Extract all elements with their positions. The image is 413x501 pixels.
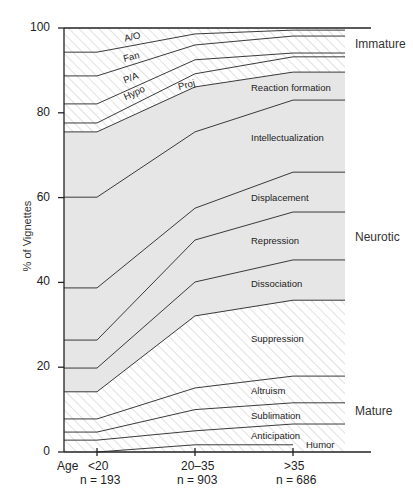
layer-label-intellectualization: Intellectualization (251, 132, 324, 143)
layer-label-sublimation: Sublimation (251, 410, 301, 421)
y-tick-80: 80 (37, 105, 50, 119)
layer-label-anticipation: Anticipation (251, 430, 300, 441)
x-tick-label-over35: >35 (284, 459, 304, 473)
x-tick-label-20-35: 20–35 (181, 459, 214, 473)
layer-label-displacement: Displacement (251, 192, 309, 203)
sample-size-20-35: n = 903 (177, 473, 217, 487)
sample-size-under20: n = 193 (80, 473, 120, 487)
x-axis-prefix: Age (57, 459, 78, 473)
layer-label-altruism: Altruism (251, 385, 285, 396)
y-tick-0: 0 (43, 444, 50, 458)
layer-label-suppression: Suppression (251, 333, 304, 344)
y-tick-40: 40 (37, 274, 50, 288)
layer-label-reaction-formation: Reaction formation (251, 82, 331, 93)
group-label-mature: Mature (355, 404, 392, 418)
layer-label-repression: Repression (251, 235, 299, 246)
stacked-area-chart (0, 0, 413, 501)
group-label-neurotic: Neurotic (355, 230, 400, 244)
group-label-immature: Immature (355, 37, 406, 51)
x-tick-label-under20: <20 (88, 459, 108, 473)
sample-size-over35: n = 686 (276, 473, 316, 487)
y-tick-60: 60 (37, 190, 50, 204)
y-axis-title: % of Vignettes (21, 181, 33, 291)
layer-label-humor: Humor (306, 439, 335, 450)
y-tick-20: 20 (37, 359, 50, 373)
y-tick-100: 100 (30, 20, 50, 34)
layer-label-dissociation: Dissociation (251, 278, 302, 289)
